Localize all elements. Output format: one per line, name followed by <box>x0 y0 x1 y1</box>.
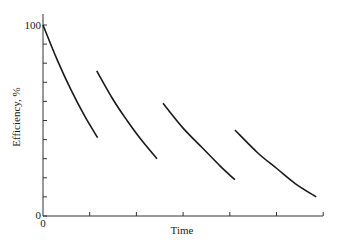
y-ticks <box>43 25 47 216</box>
y-tick-label-100: 100 <box>25 19 42 31</box>
curve-cycle-2 <box>97 71 157 159</box>
y-axis-title: Efficiency, % <box>10 87 22 147</box>
curve-cycle-4 <box>235 130 316 197</box>
curve-cycle-1 <box>43 25 98 138</box>
efficiency-curves <box>43 25 316 197</box>
x-ticks <box>90 212 324 216</box>
curve-cycle-3 <box>163 103 235 179</box>
x-tick-label-0: 0 <box>40 217 46 229</box>
efficiency-chart: 100 0 0 Time Efficiency, % <box>0 0 337 247</box>
x-axis-title: Time <box>171 224 194 236</box>
